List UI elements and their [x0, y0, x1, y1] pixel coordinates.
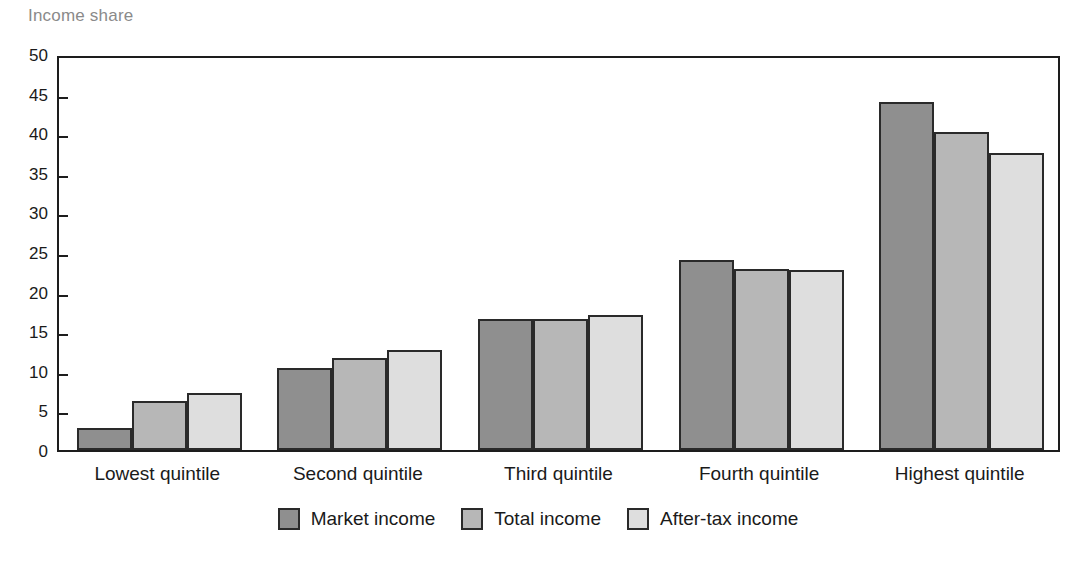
- bar-group: [879, 58, 1044, 450]
- legend-swatch-icon: [461, 508, 483, 530]
- y-axis-tick-label: 20: [29, 284, 48, 304]
- legend-label: Market income: [311, 508, 436, 530]
- legend-item: Market income: [278, 508, 436, 530]
- bar-group: [77, 58, 242, 450]
- y-axis-tick-label: 0: [39, 442, 48, 462]
- bar-group: [679, 58, 844, 450]
- legend-swatch-icon: [278, 508, 300, 530]
- plot-area: [57, 56, 1060, 452]
- x-axis-category-label: Second quintile: [293, 463, 423, 485]
- bar: [187, 393, 242, 450]
- legend-item: Total income: [461, 508, 601, 530]
- x-axis-category-label: Highest quintile: [895, 463, 1025, 485]
- income-share-bar-chart: Income share 05101520253035404550 Lowest…: [0, 0, 1076, 561]
- bar: [879, 102, 934, 450]
- bar: [277, 368, 332, 450]
- y-axis-tick-label: 5: [39, 402, 48, 422]
- bar: [478, 319, 533, 450]
- legend-label: After-tax income: [660, 508, 798, 530]
- y-axis-tick-label: 40: [29, 125, 48, 145]
- bar: [332, 358, 387, 450]
- y-axis-tick-label: 45: [29, 86, 48, 106]
- bar: [679, 260, 734, 450]
- legend-label: Total income: [494, 508, 601, 530]
- y-axis-tick-label: 15: [29, 323, 48, 343]
- bar-groups: [59, 58, 1058, 450]
- bar: [734, 269, 789, 450]
- y-axis-tick-label: 25: [29, 244, 48, 264]
- y-axis-tick-label: 10: [29, 363, 48, 383]
- x-axis-category-label: Lowest quintile: [94, 463, 220, 485]
- x-axis-category-label: Fourth quintile: [699, 463, 819, 485]
- y-axis-tick-label: 30: [29, 204, 48, 224]
- x-axis-category-labels: Lowest quintileSecond quintileThird quin…: [0, 463, 1076, 493]
- bar: [77, 428, 132, 450]
- bar: [934, 132, 989, 450]
- bar: [588, 315, 643, 450]
- legend-swatch-icon: [627, 508, 649, 530]
- chart-legend: Market incomeTotal incomeAfter-tax incom…: [0, 508, 1076, 530]
- bar-group: [277, 58, 442, 450]
- x-axis-category-label: Third quintile: [504, 463, 613, 485]
- bar-group: [478, 58, 643, 450]
- bar: [789, 270, 844, 450]
- bar: [533, 319, 588, 450]
- y-axis-tick-label: 50: [29, 46, 48, 66]
- bar: [132, 401, 187, 450]
- bar: [989, 153, 1044, 450]
- bar: [387, 350, 442, 450]
- y-axis-tick-label: 35: [29, 165, 48, 185]
- legend-item: After-tax income: [627, 508, 798, 530]
